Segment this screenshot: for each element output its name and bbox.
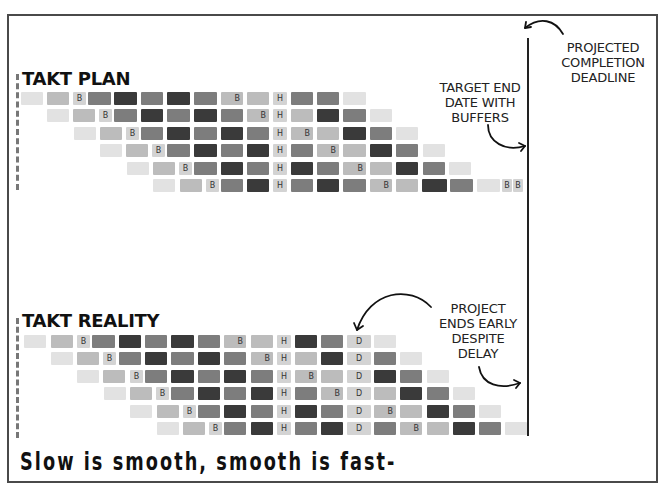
curved-arrow-icon	[0, 0, 664, 496]
tagline: Slow is smooth, smooth is fast-	[20, 448, 396, 476]
